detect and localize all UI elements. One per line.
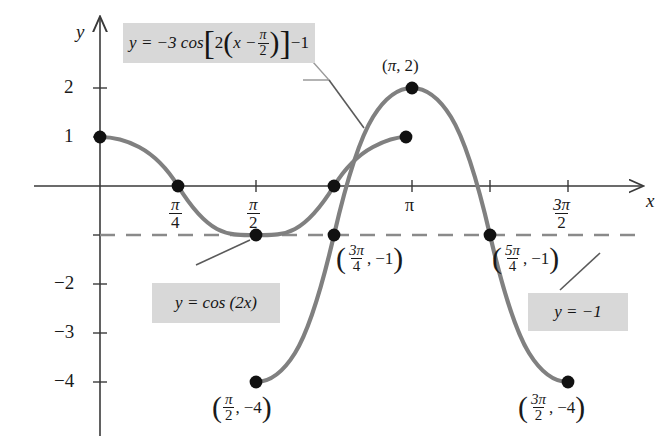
point-main-3pi2-neg4: [562, 376, 575, 389]
point-label-left-crossing: ( 3π 4 , −1 ): [336, 243, 403, 275]
max-y-value: 2: [400, 57, 413, 74]
left-min-paren-close: ): [262, 398, 272, 416]
right-crossing-y-value: −1: [527, 250, 549, 267]
point-main-5pi4-neg1: [484, 229, 497, 242]
point-label-max: ( π , 2 ): [382, 57, 419, 74]
main-eq-tail: −1: [291, 33, 309, 53]
point-main-pi-2: [406, 82, 419, 95]
right-crossing-paren-close: ): [549, 249, 559, 267]
main-eq-frac-numerator: π: [258, 28, 269, 42]
y-tick-label-1: 1: [64, 126, 74, 145]
left-crossing-x-numerator: 3π: [347, 243, 366, 258]
main-eq-lead: y = −3 cos: [129, 33, 203, 53]
right-min-paren-open: (: [518, 398, 528, 416]
x-tick-pi4-numerator: π: [169, 196, 182, 213]
left-min-paren-open: (: [212, 398, 222, 416]
right-min-y-value: −4: [553, 399, 575, 416]
callout-main-equation: y = −3 cos [ 2 ( x − π 2 ) ] −1: [123, 23, 315, 63]
main-eq-variable: x −: [233, 33, 256, 53]
point-main-3pi4-neg1: [328, 229, 341, 242]
y-tick-label-minus-2: −2: [54, 273, 74, 292]
max-paren-close: ): [413, 57, 419, 74]
x-tick-pi4-denominator: 4: [169, 213, 182, 231]
x-tick-pi2-numerator: π: [247, 196, 260, 213]
point-cos-pi-1: [400, 131, 413, 144]
x-tick-label-pi-over-4: π 4: [168, 196, 183, 232]
main-eq-bracket-open: [: [204, 33, 215, 53]
right-min-paren-close: ): [575, 398, 585, 416]
right-crossing-x-denominator: 4: [507, 258, 519, 274]
x-tick-3pi2-denominator: 2: [555, 213, 568, 231]
main-eq-coefficient: 2: [215, 33, 224, 53]
right-crossing-x-numerator: 5π: [503, 243, 522, 258]
left-min-x-numerator: π: [223, 392, 235, 407]
left-min-x-denominator: 2: [223, 407, 235, 423]
x-tick-label-pi-over-2: π 2: [246, 196, 261, 232]
y-tick-label-minus-3: −3: [54, 322, 74, 341]
y-tick-label-minus-4: −4: [54, 371, 74, 390]
x-tick-label-pi: π: [405, 196, 414, 214]
x-tick-3pi2-numerator: 3π: [551, 196, 572, 213]
y-axis-label: y: [76, 22, 84, 41]
left-crossing-x-denominator: 4: [351, 258, 363, 274]
point-cos-3pi4-0: [328, 180, 341, 193]
point-label-right-crossing: ( 5π 4 , −1 ): [492, 243, 559, 275]
point-label-right-minimum: ( 3π 2 , −4 ): [518, 392, 585, 424]
x-axis-label: x: [646, 191, 654, 210]
main-eq-frac-denominator: 2: [258, 43, 269, 58]
y-tick-label-2: 2: [64, 77, 74, 96]
right-crossing-paren-open: (: [492, 249, 502, 267]
callout-y-equals-minus-1: y = −1: [528, 293, 628, 331]
point-cos-pi4-0: [172, 180, 185, 193]
point-label-left-minimum: ( π 2 , −4 ): [212, 392, 272, 424]
graph-figure: y x 2 1 −2 −3 −4 π 4 π 2 π 3π 2 y = −3 c…: [0, 0, 672, 444]
main-eq-paren-open: (: [223, 33, 233, 51]
x-tick-label-3pi-over-2: 3π 2: [550, 196, 573, 232]
left-crossing-paren-close: ): [393, 249, 403, 267]
left-min-y-value: −4: [240, 399, 262, 416]
right-min-x-denominator: 2: [533, 407, 545, 423]
point-cos-0-1: [94, 131, 107, 144]
callout-cos-2x: y = cos (2x): [152, 283, 280, 323]
left-crossing-y-value: −1: [371, 250, 393, 267]
x-tick-pi2-denominator: 2: [247, 213, 260, 231]
main-eq-bracket-close: ]: [279, 33, 290, 53]
left-crossing-paren-open: (: [336, 249, 346, 267]
main-eq-paren-close: ): [270, 33, 280, 51]
point-main-pi2-neg4: [250, 376, 263, 389]
right-min-x-numerator: 3π: [529, 392, 548, 407]
max-x-value: π: [388, 57, 397, 74]
